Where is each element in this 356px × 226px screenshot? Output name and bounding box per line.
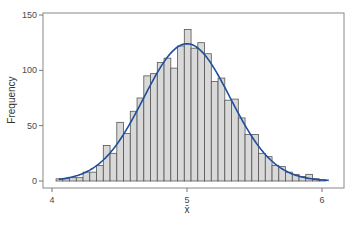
histogram-bars bbox=[56, 29, 326, 181]
histogram-bar bbox=[164, 58, 171, 181]
y-axis-label: Frequency bbox=[6, 76, 17, 123]
histogram-bar bbox=[211, 81, 218, 181]
y-tick-label: 150 bbox=[22, 10, 37, 20]
y-tick-label: 100 bbox=[22, 65, 37, 75]
x-tick-label: 4 bbox=[49, 195, 54, 205]
histogram-bar bbox=[259, 153, 266, 181]
histogram-bar bbox=[191, 48, 198, 181]
histogram-bar bbox=[117, 122, 124, 181]
histogram-bar bbox=[205, 54, 212, 181]
histogram-bar bbox=[124, 133, 131, 181]
histogram-bar bbox=[157, 63, 164, 181]
histogram-bar bbox=[110, 153, 117, 181]
y-tick-label: 0 bbox=[32, 176, 37, 186]
x-tick-label: 6 bbox=[319, 195, 324, 205]
histogram-bar bbox=[245, 135, 252, 181]
histogram-chart: 050100150 456 Frequency x̄ bbox=[0, 0, 356, 226]
histogram-bar bbox=[178, 46, 185, 181]
histogram-bar bbox=[90, 172, 97, 181]
histogram-bar bbox=[272, 166, 279, 181]
histogram-bar bbox=[218, 78, 225, 181]
histogram-bar bbox=[184, 29, 191, 181]
histogram-bar bbox=[97, 166, 104, 181]
histogram-bar bbox=[225, 100, 232, 181]
y-axis: 050100150 bbox=[22, 10, 43, 186]
histogram-bar bbox=[171, 68, 178, 181]
histogram-bar bbox=[238, 118, 245, 181]
histogram-bar bbox=[198, 43, 205, 181]
histogram-bar bbox=[103, 146, 110, 181]
histogram-bar bbox=[76, 178, 83, 181]
y-tick-label: 50 bbox=[27, 121, 37, 131]
histogram-bar bbox=[151, 74, 158, 181]
x-axis: 456 bbox=[49, 188, 324, 205]
x-axis-label: x̄ bbox=[185, 204, 190, 215]
